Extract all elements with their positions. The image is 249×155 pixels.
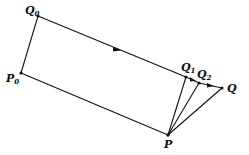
edge-q0-q1: [38, 16, 186, 77]
edge-p-q: [168, 88, 222, 135]
label-p: P: [163, 138, 173, 151]
point-q2: [197, 81, 200, 84]
label-q0: Q0: [25, 4, 40, 18]
arrow-icon-q1-q2: [190, 77, 196, 82]
point-q1: [184, 75, 187, 78]
point-q: [220, 86, 223, 89]
edge-p-q1: [168, 77, 186, 135]
point-p: [166, 133, 170, 137]
arrow-icon-q2-q: [207, 83, 214, 88]
diagram-canvas: Q0 P0 Q1 Q2 Q P: [0, 0, 249, 155]
edge-p0-p: [21, 73, 168, 135]
label-q1: Q1: [181, 61, 195, 75]
point-p0: [19, 71, 22, 74]
label-q: Q: [227, 82, 237, 95]
label-p0: P0: [5, 72, 19, 86]
label-q2: Q2: [197, 68, 212, 82]
edge-p-q2: [168, 83, 199, 135]
edge-p0-q0: [21, 16, 38, 73]
